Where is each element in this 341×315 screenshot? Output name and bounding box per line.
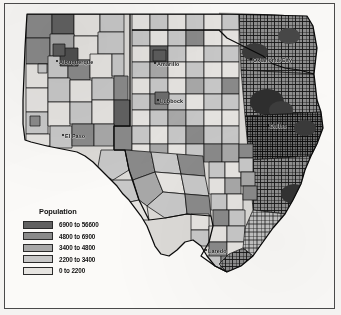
- legend-swatch-3400-4800: [23, 244, 53, 252]
- legend-label-4800-6900: 4800 to 6900: [59, 233, 95, 240]
- legend-title: Population: [39, 207, 99, 216]
- legend-label-6900-56600: 6900 to 56600: [59, 221, 99, 228]
- legend-label-3400-4800: 3400 to 4800: [59, 244, 95, 251]
- legend-swatch-6900-56600: [23, 221, 53, 229]
- city-label-laredo: Laredo: [208, 248, 227, 254]
- city-dot-el-paso: [62, 134, 64, 136]
- city-dot-lubbock: [157, 99, 159, 101]
- legend-swatch-4800-6900: [23, 232, 53, 240]
- legend-item[interactable]: 2200 to 3400: [23, 254, 99, 265]
- map-legend: Population 6900 to 56600 4800 to 6900 34…: [23, 207, 99, 277]
- legend-item[interactable]: 4800 to 6900: [23, 231, 99, 242]
- city-label-amarillo: Amarillo: [157, 61, 179, 67]
- city-dot-albuquerque: [56, 60, 58, 62]
- city-dot-dallas: [267, 124, 269, 126]
- city-dot-oklahoma-city: [250, 58, 252, 60]
- legend-swatch-0-2200: [23, 267, 53, 275]
- screenshot-page: Albuquerque Amarillo Oklahoma City Lubbo…: [0, 0, 341, 315]
- legend-label-2200-3400: 2200 to 3400: [59, 256, 95, 263]
- map-figure-frame: Albuquerque Amarillo Oklahoma City Lubbo…: [4, 3, 335, 309]
- city-label-albuquerque: Albuquerque: [59, 59, 93, 65]
- texas-panhandle-counties: [132, 14, 222, 162]
- legend-item[interactable]: 0 to 2200: [23, 265, 99, 276]
- legend-label-0-2200: 0 to 2200: [59, 267, 85, 274]
- city-dot-laredo: [205, 249, 207, 251]
- legend-swatch-2200-3400: [23, 255, 53, 263]
- city-label-oklahoma-city: Oklahoma City: [253, 57, 292, 63]
- new-mexico-counties: [26, 14, 132, 150]
- legend-item[interactable]: 6900 to 56600: [23, 219, 99, 230]
- city-dot-amarillo: [154, 62, 156, 64]
- city-label-dallas: Dallas: [270, 123, 286, 129]
- city-label-lubbock: Lubbock: [160, 98, 183, 104]
- legend-item[interactable]: 3400 to 4800: [23, 242, 99, 253]
- city-label-el-paso: El Paso: [65, 133, 85, 139]
